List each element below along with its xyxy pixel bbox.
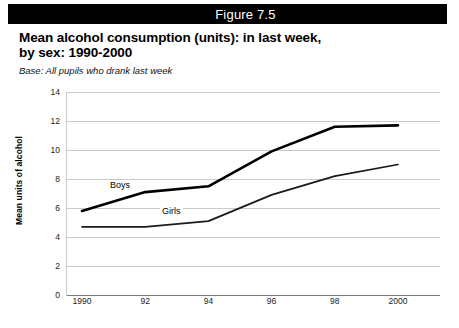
chart-title-line1: Mean alcohol consumption (units): in las… — [19, 30, 321, 45]
x-tick-label-2000: 2000 — [373, 296, 423, 306]
figure-container: Figure 7.5 Mean alcohol consumption (uni… — [0, 0, 459, 328]
y-tick-label-4: 4 — [34, 232, 60, 242]
y-tick-label-0: 0 — [34, 290, 60, 300]
gridline-2 — [67, 266, 440, 267]
y-tick-label-10: 10 — [34, 145, 60, 155]
series-label-girls: Girls — [160, 206, 183, 216]
series-line-boys — [82, 125, 398, 210]
y-tick-label-12: 12 — [34, 116, 60, 126]
y-axis-line — [66, 92, 67, 296]
gridline-10 — [67, 150, 440, 151]
chart-title: Mean alcohol consumption (units): in las… — [19, 30, 419, 60]
gridline-8 — [67, 179, 440, 180]
y-tick-label-14: 14 — [34, 87, 60, 97]
x-tick-label-96: 96 — [247, 296, 297, 306]
y-tick-label-8: 8 — [34, 174, 60, 184]
x-tick-label-94: 94 — [183, 296, 233, 306]
gridline-12 — [67, 121, 440, 122]
gridline-4 — [67, 237, 440, 238]
gridline-14 — [67, 92, 440, 93]
figure-number-label: Figure 7.5 — [215, 7, 276, 22]
chart-base-note: Base: All pupils who drank last week — [19, 65, 172, 76]
gridline-0 — [67, 295, 440, 296]
y-tick-label-6: 6 — [34, 203, 60, 213]
y-tick-label-2: 2 — [34, 261, 60, 271]
series-label-boys: Boys — [108, 180, 132, 190]
figure-header-bar: Figure 7.5 — [8, 4, 447, 24]
chart-title-line2: by sex: 1990-2000 — [19, 45, 419, 60]
x-tick-label-98: 98 — [310, 296, 360, 306]
gridline-6 — [67, 208, 440, 209]
series-line-girls — [82, 165, 398, 227]
y-axis-title: Mean units of alcohol — [14, 136, 28, 225]
x-tick-label-92: 92 — [120, 296, 170, 306]
x-tick-label-1990: 1990 — [57, 296, 107, 306]
